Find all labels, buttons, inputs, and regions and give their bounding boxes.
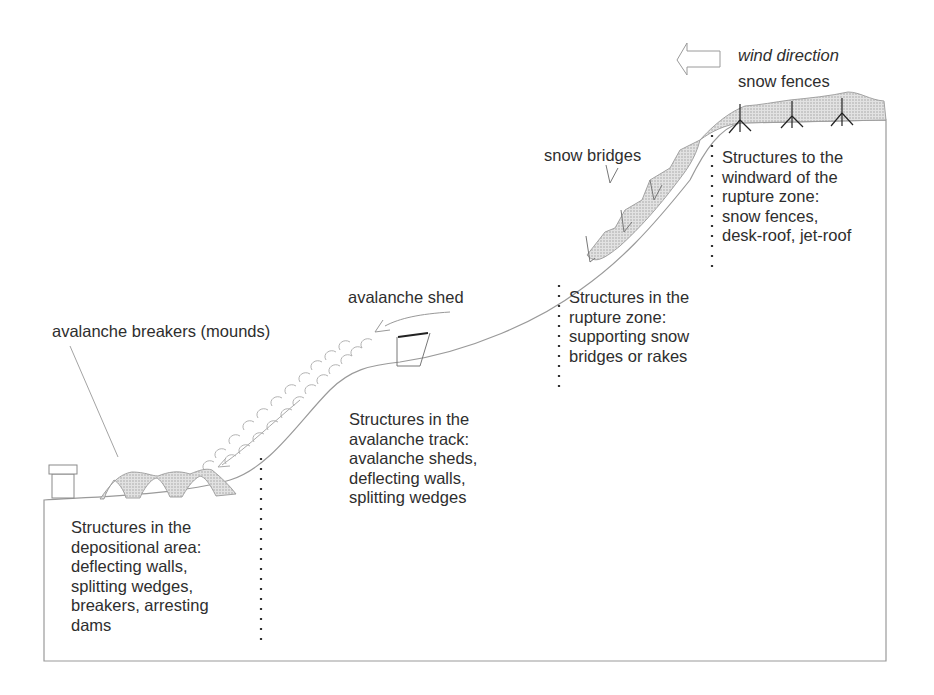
zone-depositional-line: dams <box>71 616 209 636</box>
avalanche-cloud-arrow-head <box>218 458 230 467</box>
zone-windward-line: rupture zone: <box>722 187 851 207</box>
zone-depositional-line: breakers, arresting <box>71 596 209 616</box>
zone-rupture-line: Structures in the <box>569 288 689 308</box>
avalanche-breakers-label: avalanche breakers (mounds) <box>52 321 270 341</box>
avalanche-flow-arrow <box>385 312 450 326</box>
zone-depositional-description: Structures in the depositional area: def… <box>71 518 209 635</box>
zone-rupture-line: bridges or rakes <box>569 347 689 367</box>
zone-depositional-line: depositional area: <box>71 538 209 558</box>
avalanche-shed-label: avalanche shed <box>348 287 464 307</box>
wind-arrow-icon <box>677 43 720 75</box>
zone-track-description: Structures in the avalanche track: avala… <box>349 410 477 508</box>
zone-track-line: deflecting walls, <box>349 469 477 489</box>
zone-windward-description: Structures to the windward of the ruptur… <box>722 148 851 246</box>
zone-track-line: Structures in the <box>349 410 477 430</box>
zone-track-line: avalanche sheds, <box>349 449 477 469</box>
avalanche-flow-arrow-head <box>375 320 390 332</box>
zone-track-line: splitting wedges <box>349 488 477 508</box>
snow-bridges-label: snow bridges <box>544 145 641 165</box>
house-icon <box>49 465 77 498</box>
zone-windward-line: Structures to the <box>722 148 851 168</box>
zone-rupture-line: rupture zone: <box>569 308 689 328</box>
zone-track-line: avalanche track: <box>349 430 477 450</box>
breakers-leader-line <box>70 346 118 457</box>
zone-windward-line: snow fences, <box>722 207 851 227</box>
zone-depositional-line: deflecting walls, <box>71 557 209 577</box>
zone-depositional-line: Structures in the <box>71 518 209 538</box>
zone-rupture-line: supporting snow <box>569 327 689 347</box>
zone-windward-line: desk-roof, jet-roof <box>722 226 851 246</box>
zone-rupture-description: Structures in the rupture zone: supporti… <box>569 288 689 366</box>
wind-direction-label: wind direction <box>738 45 839 65</box>
snow-fences-label: snow fences <box>738 71 830 91</box>
zone-windward-line: windward of the <box>722 168 851 188</box>
zone-depositional-line: splitting wedges, <box>71 577 209 597</box>
